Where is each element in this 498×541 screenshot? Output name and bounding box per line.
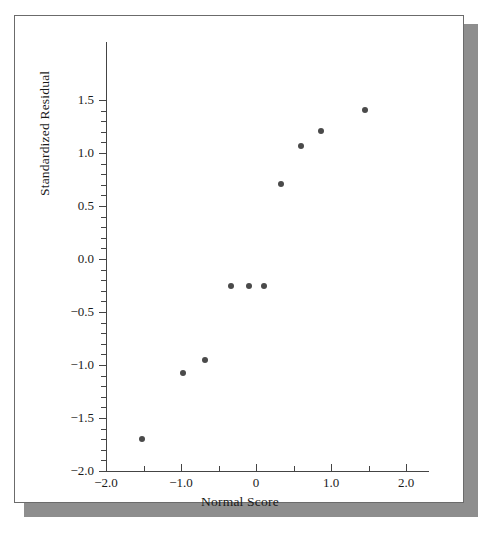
y-tick-minor: [101, 164, 106, 165]
y-tick-minor: [101, 185, 106, 186]
x-axis-title: Normal Score: [15, 494, 465, 510]
x-tick-label: −2.0: [94, 476, 118, 489]
x-tick-major: [406, 464, 407, 471]
x-tick-minor: [369, 466, 370, 471]
y-tick-minor: [101, 238, 106, 239]
scatter-point: [261, 283, 267, 289]
y-tick-minor: [101, 280, 106, 281]
y-tick-minor: [101, 111, 106, 112]
scatter-point: [228, 283, 234, 289]
x-tick-major: [181, 464, 182, 471]
y-tick-minor: [101, 142, 106, 143]
y-tick-major: [99, 312, 106, 313]
scatter-point: [278, 181, 284, 187]
y-tick-minor: [101, 386, 106, 387]
y-tick-minor: [101, 450, 106, 451]
y-tick-minor: [101, 248, 106, 249]
x-tick-label: 2.0: [398, 476, 414, 489]
scatter-point: [298, 143, 304, 149]
y-tick-label: −1.5: [70, 411, 94, 424]
y-tick-major: [99, 418, 106, 419]
y-tick-label: 0.0: [78, 252, 94, 265]
y-tick-minor: [101, 354, 106, 355]
y-tick-minor: [101, 460, 106, 461]
x-tick-minor: [144, 466, 145, 471]
x-tick-minor: [219, 466, 220, 471]
y-tick-major: [99, 153, 106, 154]
x-tick-minor: [294, 466, 295, 471]
scatter-point: [202, 357, 208, 363]
y-tick-minor: [101, 121, 106, 122]
y-axis-line: [106, 42, 107, 472]
y-tick-label: −2.0: [70, 464, 94, 477]
scatter-point: [139, 436, 145, 442]
y-tick-label: 1.5: [78, 93, 94, 106]
y-tick-major: [99, 365, 106, 366]
y-tick-minor: [101, 132, 106, 133]
y-tick-minor: [101, 344, 106, 345]
y-tick-minor: [101, 323, 106, 324]
y-tick-major: [99, 471, 106, 472]
y-tick-label: 1.0: [78, 146, 94, 159]
y-tick-minor: [101, 270, 106, 271]
scatter-point: [362, 107, 368, 113]
y-tick-minor: [101, 217, 106, 218]
y-tick-label: 0.5: [78, 199, 94, 212]
y-tick-minor: [101, 195, 106, 196]
y-tick-minor: [101, 376, 106, 377]
scatter-plot-area: 1.51.00.50.0−0.5−1.0−1.5−2.0 −2.0−1.001.…: [15, 16, 463, 502]
figure-shadow-right: [462, 24, 478, 517]
x-tick-label: −1.0: [169, 476, 193, 489]
x-axis-line: [106, 471, 429, 472]
y-tick-label: −1.0: [70, 358, 94, 371]
scatter-point: [180, 370, 186, 376]
y-tick-major: [99, 100, 106, 101]
y-tick-minor: [101, 301, 106, 302]
y-tick-label: −0.5: [70, 305, 94, 318]
y-tick-minor: [101, 174, 106, 175]
y-tick-minor: [101, 397, 106, 398]
y-tick-minor: [101, 407, 106, 408]
x-tick-major: [106, 464, 107, 471]
y-tick-minor: [101, 291, 106, 292]
x-tick-label: 1.0: [323, 476, 339, 489]
figure-frame: 1.51.00.50.0−0.5−1.0−1.5−2.0 −2.0−1.001.…: [14, 15, 464, 503]
scatter-point: [318, 128, 324, 134]
x-tick-major: [331, 464, 332, 471]
y-tick-minor: [101, 333, 106, 334]
y-tick-minor: [101, 227, 106, 228]
y-tick-minor: [101, 429, 106, 430]
y-tick-major: [99, 259, 106, 260]
y-tick-minor: [101, 439, 106, 440]
x-tick-major: [256, 464, 257, 471]
x-tick-label: 0: [253, 476, 260, 489]
y-tick-major: [99, 206, 106, 207]
scatter-point: [246, 283, 252, 289]
y-axis-title: Standardized Residual: [37, 71, 53, 196]
